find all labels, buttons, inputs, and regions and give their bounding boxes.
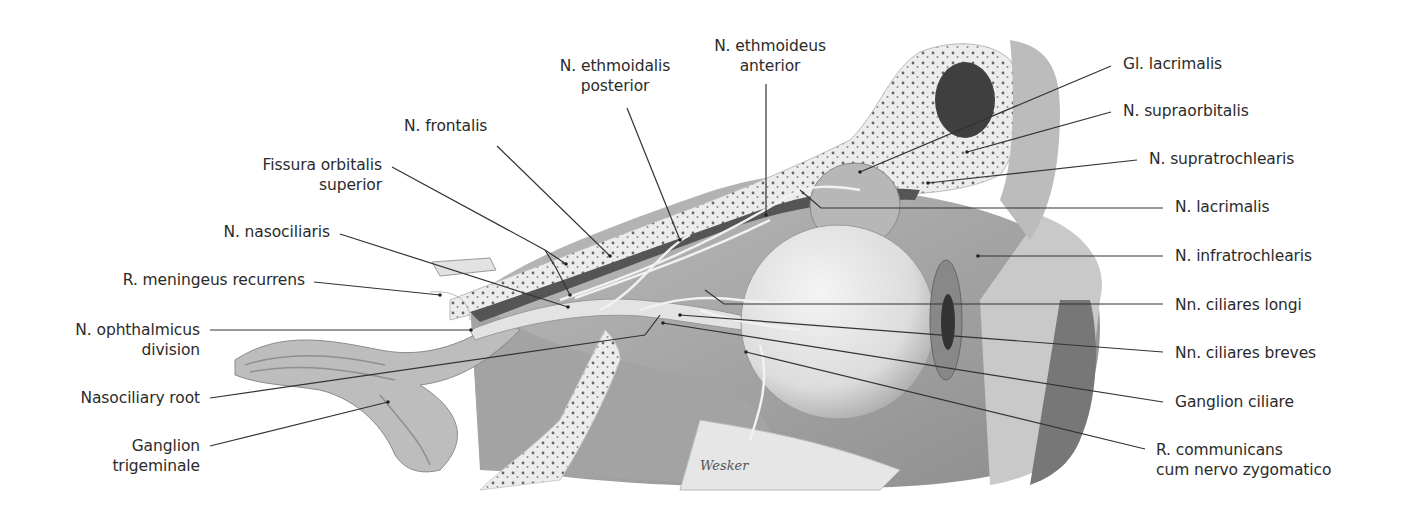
label-nn-ciliares-breves: Nn. ciliares breves: [1175, 343, 1316, 363]
label-n-nasociliaris: N. nasociliaris: [150, 222, 330, 242]
label-n-lacrimalis: N. lacrimalis: [1175, 197, 1269, 217]
label-nn-ciliares-longi: Nn. ciliares longi: [1175, 295, 1302, 315]
label-n-frontalis: N. frontalis: [404, 116, 487, 136]
label-n-ethmoideus-anterior: N. ethmoideus anterior: [700, 36, 840, 76]
label-ganglion-ciliare: Ganglion ciliare: [1175, 392, 1294, 412]
label-r-meningeus-recurrens: R. meningeus recurrens: [80, 270, 305, 290]
label-gl-lacrimalis: Gl. lacrimalis: [1123, 54, 1222, 74]
artist-signature: Wesker: [700, 458, 749, 473]
anatomical-figure: Wesker N. ethmoideus anterior N. ethmoid…: [0, 0, 1407, 516]
label-n-supraorbitalis: N. supraorbitalis: [1123, 101, 1249, 121]
label-n-infratrochlearis: N. infratrochlearis: [1175, 246, 1312, 266]
label-fissura-orbitalis-superior: Fissura orbitalis superior: [232, 155, 382, 195]
label-r-communicans: R. communicans cum nervo zygomatico: [1156, 440, 1331, 480]
label-n-ethmoidalis-posterior: N. ethmoidalis posterior: [540, 56, 690, 96]
label-n-ophthalmicus-division: N. ophthalmicus division: [40, 320, 200, 360]
label-n-supratrochlearis: N. supratrochlearis: [1149, 149, 1294, 169]
label-nasociliary-root: Nasociliary root: [40, 388, 200, 408]
label-ganglion-trigeminale: Ganglion trigeminale: [40, 436, 200, 476]
